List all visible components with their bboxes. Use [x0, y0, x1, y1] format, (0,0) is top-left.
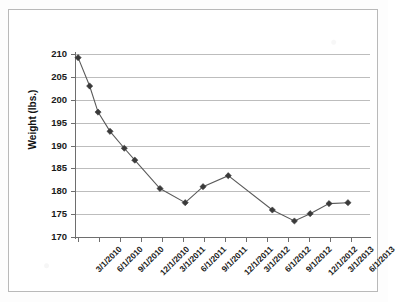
chart-figure-frame: Weight (lbs.) 21020520019519018518017517… — [8, 9, 378, 292]
y-tick-label: 205 — [37, 72, 67, 81]
x-tick-mark — [99, 238, 100, 242]
y-tick-label: 180 — [37, 186, 67, 195]
y-tick-label: 210 — [37, 49, 67, 58]
x-tick-mark — [309, 238, 310, 242]
x-tick-mark — [246, 238, 247, 242]
data-point-marker — [307, 211, 313, 217]
x-tick-mark — [288, 238, 289, 242]
x-tick-mark — [330, 238, 331, 242]
x-tick-mark — [78, 238, 79, 242]
y-tick-label: 175 — [37, 209, 67, 218]
data-point-marker — [87, 83, 93, 89]
series-line — [78, 58, 348, 221]
plot-area — [76, 54, 370, 237]
y-tick-label: 185 — [37, 163, 67, 172]
data-point-marker — [75, 55, 81, 61]
weight-line-series — [76, 54, 370, 237]
data-point-marker — [345, 200, 351, 206]
x-tick-mark — [204, 238, 205, 242]
data-point-marker — [291, 218, 297, 224]
x-tick-mark — [183, 238, 184, 242]
y-tick-label: 195 — [37, 118, 67, 127]
x-tick-mark — [141, 238, 142, 242]
x-tick-mark — [225, 238, 226, 242]
data-point-marker — [326, 201, 332, 207]
x-tick-mark — [120, 238, 121, 242]
x-tick-mark — [267, 238, 268, 242]
y-tick-label: 190 — [37, 141, 67, 150]
x-tick-mark — [162, 238, 163, 242]
data-point-marker — [95, 109, 101, 115]
y-tick-label: 170 — [37, 232, 67, 241]
y-tick-label: 200 — [37, 95, 67, 104]
x-tick-mark — [351, 238, 352, 242]
